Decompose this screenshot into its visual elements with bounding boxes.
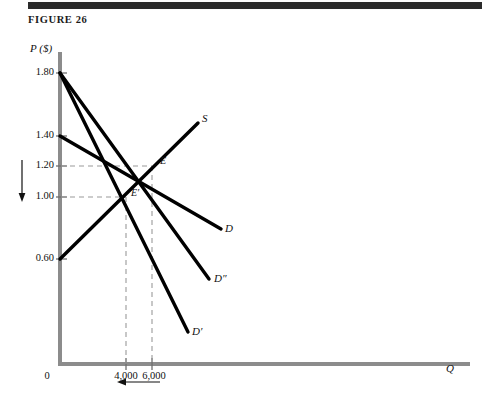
y-tick-label-1-20: 1.20 (4, 159, 54, 170)
y-tick-label-0-60: 0.60 (4, 252, 54, 263)
curve-label-demand: D (225, 222, 233, 234)
curve-label-demand-prime: D′ (192, 325, 202, 337)
economics-supply-demand-chart (0, 0, 482, 406)
y-tick-label-1-00: 1.00 (4, 190, 54, 201)
curve-label-demand-double-prime: D″ (214, 272, 227, 284)
x-axis-title: Q (446, 362, 454, 374)
y-tick-label-1-40: 1.40 (4, 129, 54, 140)
curve-label-supply: S (202, 112, 208, 124)
x-tick-label-0: 0 (38, 370, 56, 381)
equilibrium-label-e: E (160, 155, 166, 166)
x-tick-label-6000: 6,000 (129, 370, 179, 381)
demand-curve-d-prime (60, 73, 188, 332)
supply-curve-s (60, 123, 198, 259)
y-tick-label-1-80: 1.80 (4, 66, 54, 77)
demand-curve-d-double-prime (60, 73, 209, 279)
y-axis-title: P ($) (30, 42, 52, 54)
figure-plot-area: P ($) Q 1.80 1.40 1.20 1.00 0.60 0 4,000… (0, 0, 482, 406)
equilibrium-label-e-prime: E′ (131, 187, 139, 198)
